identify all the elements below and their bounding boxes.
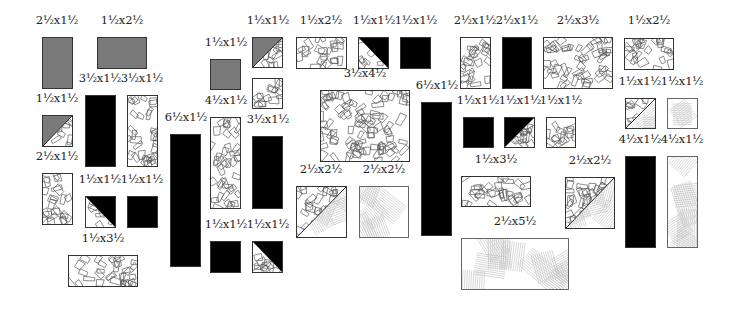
fabric-piece-black [210, 241, 241, 273]
fabric-piece-half-print-stripe [565, 177, 615, 229]
fabric-piece-black [625, 156, 656, 248]
dimension-label: 1½x1½ [238, 217, 298, 231]
dimension-label: 2½x1½ [27, 13, 87, 27]
fabric-piece-print [210, 117, 241, 209]
fabric-piece-black [252, 136, 283, 209]
fabric-piece-stripe [667, 98, 698, 129]
fabric-piece-black [502, 37, 532, 89]
dimension-label: 1½x1½ [238, 13, 298, 27]
fabric-piece-print [68, 255, 138, 287]
fabric-piece-print [461, 176, 531, 207]
dimension-label: 6½x1½ [407, 78, 467, 92]
fabric-piece-print [543, 37, 613, 89]
fabric-piece-print [296, 37, 347, 69]
dimension-label: 1½x2½ [291, 13, 351, 27]
fabric-piece-stripe [667, 156, 698, 248]
dimension-label: 1½x1½ [531, 93, 591, 107]
fabric-piece-gray [210, 59, 241, 90]
dimension-label: 3½x1½ [238, 112, 298, 126]
fabric-piece-stripe [359, 186, 409, 238]
fabric-piece-print [252, 78, 283, 109]
fabric-piece-gray [97, 37, 147, 69]
dimension-label: 1½x2½ [92, 13, 152, 27]
dimension-label: 1½x3½ [73, 231, 133, 245]
fabric-piece-print [624, 38, 674, 70]
fabric-piece-half-print-stripe [625, 98, 656, 129]
fabric-piece-black [127, 196, 158, 228]
fabric-piece-half-black-print [252, 241, 283, 273]
dimension-label: 2½x2½ [560, 153, 620, 167]
fabric-piece-print [127, 95, 158, 167]
dimension-label: 2½x3½ [548, 13, 608, 27]
dimension-label: 6½x1½ [156, 110, 216, 124]
dimension-label: 1½x1½ [652, 74, 712, 88]
fabric-piece-black [85, 95, 116, 167]
fabric-piece-black [400, 37, 431, 69]
fabric-piece-half-gray-print [42, 115, 73, 147]
fabric-piece-gray [42, 37, 73, 89]
dimension-label: 2½x5½ [485, 214, 545, 228]
dimension-label: 1½x1½ [27, 91, 87, 105]
dimension-label: 1½x1½ [112, 172, 172, 186]
dimension-label: 2½x1½ [487, 13, 547, 27]
dimension-label: 2½x2½ [291, 162, 351, 176]
fabric-piece-black [463, 117, 494, 148]
dimension-label: 4½x1½ [196, 93, 256, 107]
dimension-label: 2½x2½ [354, 162, 414, 176]
fabric-piece-black [421, 102, 452, 236]
dimension-label: 3½x4½ [335, 66, 395, 80]
fabric-piece-print [42, 173, 73, 225]
dimension-label: 1½x3½ [466, 152, 526, 166]
fabric-piece-print [320, 90, 410, 162]
fabric-piece-half-black-print [504, 117, 535, 148]
fabric-piece-stripe [461, 238, 569, 290]
dimension-label: 1½x2½ [619, 13, 679, 27]
fabric-piece-half-black-print [85, 196, 116, 228]
fabric-piece-half-print-stripe [296, 186, 347, 238]
fabric-piece-half-gray-print [252, 37, 283, 68]
dimension-label: 4½x1½ [652, 132, 712, 146]
dimension-label: 3½x1½ [112, 71, 172, 85]
dimension-label: 1½x1½ [386, 13, 446, 27]
fabric-piece-half-black-print-tr [358, 37, 389, 69]
fabric-piece-black [170, 134, 201, 267]
dimension-label: 1½x1½ [196, 35, 256, 49]
fabric-piece-print [546, 117, 576, 148]
dimension-label: 2½x1½ [27, 149, 87, 163]
